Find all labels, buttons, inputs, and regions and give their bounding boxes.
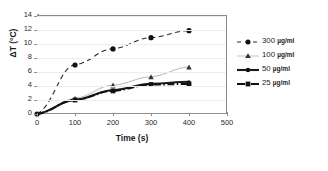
data-point: [72, 62, 77, 67]
y-axis-tick-label: 2: [16, 95, 32, 103]
dashdot-square-marker-icon: [236, 76, 260, 88]
x-axis-tick-marks: [37, 113, 227, 117]
chart-legend: 300 µg/ml100 µg/ml50 µg/ml25 µg/ml: [236, 33, 328, 89]
x-axis-tick-labels: 0100200300400500: [37, 119, 227, 131]
chart-figure: ΔT (°C) 02468101214 0100200300400500 Tim…: [0, 0, 328, 171]
legend-unit: µg/ml: [277, 51, 294, 58]
data-point: [148, 35, 153, 40]
x-axis-tick-label: 100: [60, 119, 90, 127]
legend-concentration: 300: [262, 36, 277, 45]
legend-concentration: 50: [262, 64, 273, 73]
x-axis-tick-mark: [151, 113, 152, 116]
x-axis-tick-label: 200: [98, 119, 128, 127]
x-axis-tick-label: 300: [136, 119, 166, 127]
x-axis-tick-label: 400: [174, 119, 204, 127]
series-line-25: [37, 84, 189, 114]
legend-label-25: 25 µg/ml: [260, 78, 290, 87]
legend-label-300: 300 µg/ml: [260, 36, 294, 45]
dashed-circle-marker-icon: [236, 34, 260, 46]
legend-unit: µg/ml: [273, 65, 290, 72]
legend-concentration: 100: [262, 50, 277, 59]
x-axis-tick-label: 500: [212, 119, 242, 127]
y-axis-tick-label: 6: [16, 67, 32, 75]
solid-circle-marker-icon: [236, 62, 260, 74]
y-axis-tick-label: 12: [16, 25, 32, 33]
y-axis-tick-label: 8: [16, 53, 32, 61]
x-axis-title: Time (s): [37, 133, 227, 143]
plot-area: [37, 15, 227, 113]
legend-label-100: 100 µg/ml: [260, 50, 294, 59]
y-axis-tick-labels: 02468101214: [14, 0, 32, 171]
legend-unit: µg/ml: [277, 37, 294, 44]
legend-item-100[interactable]: 100 µg/ml: [236, 47, 328, 61]
legend-item-300[interactable]: 300 µg/ml: [236, 33, 328, 47]
x-axis-tick-mark: [75, 113, 76, 116]
x-axis-tick-mark: [227, 113, 228, 116]
gridline: [37, 30, 226, 31]
data-point: [110, 46, 115, 51]
x-axis-tick-label: 0: [22, 119, 52, 127]
data-point: [111, 89, 116, 94]
y-axis-tick-label: 0: [16, 109, 32, 117]
legend-label-50: 50 µg/ml: [260, 64, 290, 73]
legend-unit: µg/ml: [273, 79, 290, 86]
gridline: [37, 16, 226, 17]
legend-item-25[interactable]: 25 µg/ml: [236, 75, 328, 89]
gridline: [37, 58, 226, 59]
triangle-marker-icon: [236, 48, 260, 60]
legend-item-50[interactable]: 50 µg/ml: [236, 61, 328, 75]
gridline: [37, 72, 226, 73]
x-axis-tick-mark: [189, 113, 190, 116]
gridline: [37, 44, 226, 45]
gridline: [37, 86, 226, 87]
y-axis-tick-label: 4: [16, 81, 32, 89]
x-axis-tick-mark: [113, 113, 114, 116]
y-axis-tick-label: 10: [16, 39, 32, 47]
gridline: [37, 100, 226, 101]
y-axis-tick-label: 14: [16, 11, 32, 19]
x-axis-tick-mark: [37, 113, 38, 116]
legend-concentration: 25: [262, 78, 273, 87]
